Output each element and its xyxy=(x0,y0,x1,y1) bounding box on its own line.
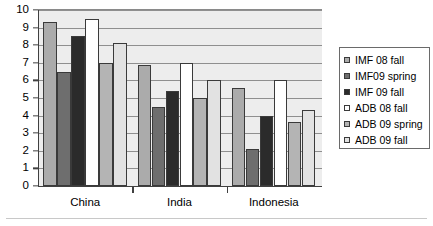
bottom-divider xyxy=(6,218,427,219)
bar xyxy=(152,107,165,186)
bar xyxy=(166,91,179,186)
bar xyxy=(302,110,315,186)
y-tick-label: 10 xyxy=(16,4,29,16)
legend-item[interactable]: ADB 09 spring xyxy=(344,116,426,132)
bar xyxy=(71,36,84,186)
bar xyxy=(274,80,287,186)
legend-label: IMF 09 fall xyxy=(355,87,404,98)
legend-label: IMF 08 fall xyxy=(355,55,404,66)
bar xyxy=(99,63,112,186)
legend-swatch-icon xyxy=(344,105,350,111)
y-tick-label: 7 xyxy=(23,57,29,69)
y-tick-label: 9 xyxy=(23,22,29,34)
y-tick-label: 8 xyxy=(23,39,29,51)
bar xyxy=(43,22,56,186)
bar xyxy=(85,19,98,186)
category-label-indonesia: Indonesia xyxy=(249,196,299,208)
legend-label: ADB 09 spring xyxy=(355,119,423,130)
bar xyxy=(57,72,70,186)
bar xyxy=(207,80,220,186)
bar xyxy=(232,88,245,186)
legend-swatch-icon xyxy=(344,73,350,79)
legend-swatch-icon xyxy=(344,121,350,127)
bar xyxy=(193,98,206,186)
legend-label: ADB 09 fall xyxy=(355,135,408,146)
legend-swatch-icon xyxy=(344,57,350,63)
y-tick-label: 5 xyxy=(23,92,29,104)
category-label-china: China xyxy=(70,196,100,208)
legend-item[interactable]: ADB 08 fall xyxy=(344,100,426,116)
bar-chart: 012345678910 ChinaIndiaIndonesia IMF 08 … xyxy=(0,0,433,226)
y-axis: 012345678910 xyxy=(0,0,38,196)
category-label-india: India xyxy=(167,196,192,208)
legend-swatch-icon xyxy=(344,89,350,95)
bar xyxy=(113,43,126,186)
bar xyxy=(260,116,273,186)
legend-swatch-icon xyxy=(344,137,350,143)
category-separator xyxy=(227,186,228,193)
legend-item[interactable]: IMF09 spring xyxy=(344,68,426,84)
legend-item[interactable]: IMF 09 fall xyxy=(344,84,426,100)
y-tick-label: 4 xyxy=(23,110,29,122)
legend-item[interactable]: ADB 09 fall xyxy=(344,132,426,148)
bar xyxy=(288,122,301,186)
legend-item[interactable]: IMF 08 fall xyxy=(344,52,426,68)
bar xyxy=(180,63,193,186)
bars-layer xyxy=(38,10,321,186)
y-tick-label: 2 xyxy=(23,145,29,157)
legend: IMF 08 fall IMF09 spring IMF 09 fall ADB… xyxy=(339,47,430,149)
category-separator xyxy=(132,186,133,193)
y-tick-label: 6 xyxy=(23,75,29,87)
bar xyxy=(246,149,259,186)
bar xyxy=(138,65,151,186)
y-tick-label: 3 xyxy=(23,127,29,139)
legend-label: ADB 08 fall xyxy=(355,103,408,114)
y-tick-label: 1 xyxy=(23,163,29,175)
y-tick-label: 0 xyxy=(23,180,29,192)
legend-label: IMF09 spring xyxy=(355,71,416,82)
